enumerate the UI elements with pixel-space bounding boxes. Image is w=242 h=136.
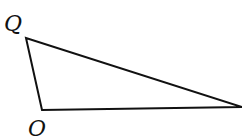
vertex-label-top: Q xyxy=(4,11,22,36)
triangle-shape xyxy=(26,38,242,110)
triangle-diagram: Q O xyxy=(0,0,242,136)
vertex-label-bottom: O xyxy=(28,116,46,136)
